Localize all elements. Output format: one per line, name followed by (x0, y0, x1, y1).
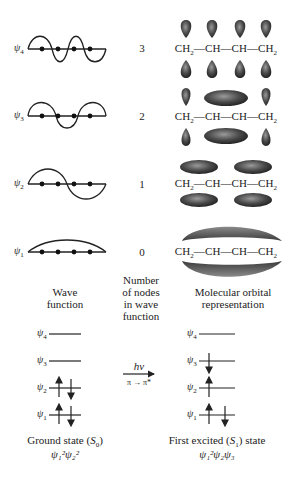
formula-psi2: CH2—CH—CH—CH2 (161, 177, 291, 192)
excited-state-config: ψ₁²ψ₂ψ₃ (152, 448, 282, 460)
formula-psi3: CH2—CH—CH—CH2 (161, 110, 291, 125)
psi-label-3: ψ3 (14, 109, 24, 123)
node-count-psi3: 2 (132, 110, 152, 122)
node-count-psi1: 0 (132, 246, 152, 258)
transition-pi-pi-star: π → π* (116, 377, 162, 389)
excited-level-1: ψ1 (187, 408, 197, 422)
ground-level-1: ψ1 (37, 408, 47, 422)
excited-levels (199, 334, 235, 415)
node-count-psi4: 3 (132, 42, 152, 54)
header-number-of-nodes: Numberof nodesin wavefunction (112, 274, 170, 322)
formula-psi1: CH2—CH—CH—CH2 (161, 245, 291, 260)
ground-levels (49, 334, 81, 415)
excited-level-3: ψ3 (187, 354, 197, 368)
wave-psi1 (28, 240, 106, 252)
excited-level-2: ψ2 (187, 381, 197, 395)
ground-level-4: ψ4 (37, 327, 47, 341)
wave-psi3 (28, 103, 106, 129)
atom-dots (40, 47, 93, 255)
psi-label-4: ψ4 (14, 42, 24, 56)
excited-level-4: ψ4 (187, 327, 197, 341)
psi-label-1: ψ1 (14, 245, 24, 259)
formula-psi4: CH2—CH—CH—CH2 (161, 42, 291, 57)
transition-hv: hν (118, 360, 160, 372)
psi-label-2: ψ2 (14, 177, 24, 191)
ground-level-2: ψ2 (37, 381, 47, 395)
header-molecular-orbital: Molecular orbitalrepresentation (178, 286, 288, 310)
node-count-psi2: 1 (132, 178, 152, 190)
header-wave-function: Wavefunction (30, 286, 100, 310)
ground-electrons (56, 377, 74, 426)
ground-level-3: ψ3 (37, 354, 47, 368)
ground-state-config: ψ₁²ψ₂² (10, 448, 120, 460)
